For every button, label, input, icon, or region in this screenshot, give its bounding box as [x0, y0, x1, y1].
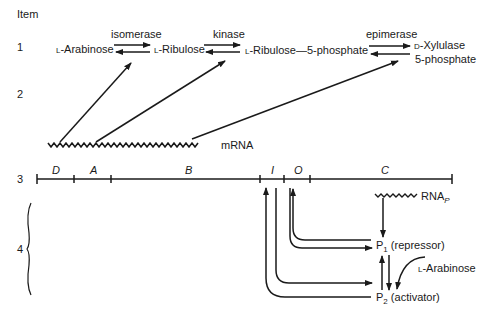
mrna-to-epimerase-arrow [192, 61, 398, 139]
gene-d: D [52, 165, 60, 176]
gene-a: A [90, 165, 97, 176]
mrna-zigzag [48, 143, 198, 147]
substrate-l-arabinose: L-Arabinose [56, 44, 114, 55]
rnap-label: RNAP [421, 191, 450, 205]
rnap-zigzag [375, 194, 417, 197]
repressor-to-operator-arrow [293, 189, 371, 240]
mrna-to-isomerase-arrow [60, 63, 131, 142]
enzyme-kinase: kinase [213, 29, 245, 40]
item-column-header: Item [17, 9, 38, 20]
enzyme-isomerase: isomerase [111, 29, 162, 40]
item-number-4: 4 [17, 244, 23, 255]
gene-i: I [271, 165, 274, 176]
mrna-to-kinase-arrow [96, 61, 225, 142]
operator-to-p1-arrow [290, 188, 372, 248]
substrate-l-ribulose: L-Ribulose [154, 44, 205, 55]
gene-o: O [294, 165, 303, 176]
gene-c: C [381, 165, 389, 176]
p1-repressor-label: P1 (repressor) [376, 240, 445, 254]
gene-b: B [185, 165, 192, 176]
substrate-d-xylulase-line2: 5-phosphate [415, 54, 476, 65]
item-number-3: 3 [17, 174, 23, 185]
activator-to-initiator-arrow [266, 188, 371, 297]
p2-activator-label: P2 (activator) [376, 292, 440, 306]
mrna-label: mRNA [221, 140, 253, 151]
item-number-1: 1 [17, 42, 23, 53]
inducer-l-arabinose: L-Arabinose [418, 263, 476, 274]
item-number-2: 2 [17, 89, 23, 100]
substrate-d-xylulase: D-Xylulase [414, 40, 465, 51]
enzyme-epimerase: epimerase [366, 29, 417, 40]
substrate-l-ribulose-5-phosphate: L-Ribulose—5-phosphate [245, 45, 368, 56]
item-4-brace [27, 203, 31, 295]
